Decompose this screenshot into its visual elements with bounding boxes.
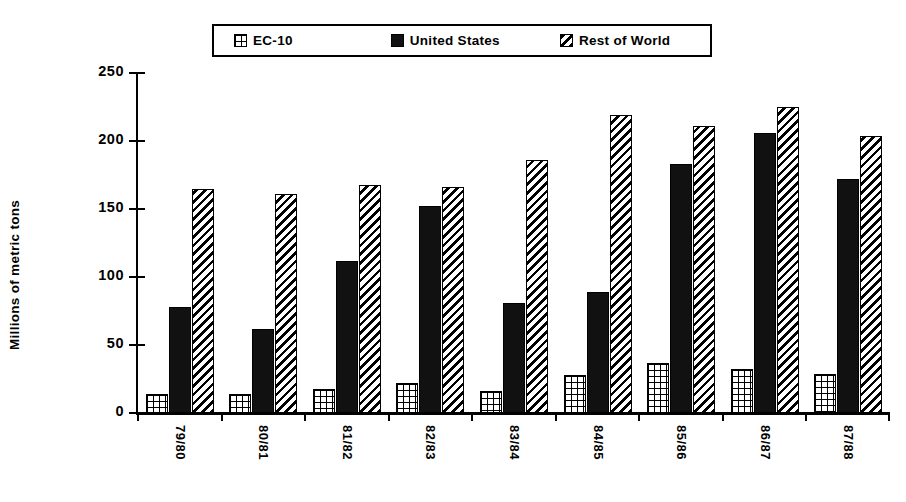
- bar-rest-of-world-79-80: [192, 189, 214, 413]
- y-tick-label-200: 200: [78, 131, 124, 147]
- y-tick-150: [129, 208, 145, 210]
- y-tick-label-100: 100: [78, 267, 124, 283]
- x-axis-label-82-83: 82/83: [423, 425, 438, 460]
- bar-united-states-86-87: [754, 133, 776, 413]
- x-axis-label-85-86: 85/86: [674, 425, 689, 460]
- bar-rest-of-world-82-83: [442, 187, 464, 413]
- bar-ec-10-83-84: [480, 391, 502, 413]
- legend-label-ec-10: EC-10: [253, 33, 293, 48]
- legend-item-ec-10[interactable]: EC-10: [234, 33, 293, 48]
- bar-ec-10-84-85: [564, 375, 586, 413]
- y-tick-200: [129, 140, 145, 142]
- solid-swatch-icon: [391, 34, 404, 47]
- bar-rest-of-world-84-85: [610, 115, 632, 413]
- legend-item-united-states[interactable]: United States: [391, 33, 500, 48]
- y-tick-label-50: 50: [78, 335, 124, 351]
- y-axis-title: Millions of metric tons: [7, 200, 22, 350]
- bar-united-states-82-83: [419, 206, 441, 413]
- bar-united-states-80-81: [252, 329, 274, 413]
- x-tick-84-85: [555, 412, 557, 421]
- legend-label-rest-of-world: Rest of World: [579, 33, 670, 48]
- x-label-wrap-85-86: 85/86: [671, 425, 691, 495]
- x-tick-81-82: [304, 412, 306, 421]
- y-tick-label-150: 150: [78, 199, 124, 215]
- x-label-wrap-87-88: 87/88: [838, 425, 858, 495]
- x-tick-87-88: [805, 412, 807, 421]
- diagonal-swatch-icon: [560, 34, 573, 47]
- y-tick-label-250: 250: [78, 63, 124, 79]
- bar-ec-10-80-81: [229, 394, 251, 413]
- bar-united-states-81-82: [336, 261, 358, 413]
- x-tick-80-81: [221, 412, 223, 421]
- bar-united-states-79-80: [169, 307, 191, 413]
- legend-item-rest-of-world[interactable]: Rest of World: [560, 33, 670, 48]
- x-axis-label-87-88: 87/88: [841, 425, 856, 460]
- x-label-wrap-80-81: 80/81: [253, 425, 273, 495]
- x-tick-83-84: [471, 412, 473, 421]
- x-axis-label-84-85: 84/85: [590, 425, 605, 460]
- bar-ec-10-79-80: [146, 394, 168, 413]
- bar-ec-10-86-87: [731, 369, 753, 413]
- x-label-wrap-83-84: 83/84: [504, 425, 524, 495]
- chart-legend: EC-10 United States Rest of World: [212, 24, 712, 57]
- bar-united-states-84-85: [587, 292, 609, 413]
- x-axis-label-86-87: 86/87: [757, 425, 772, 460]
- x-label-wrap-79-80: 79/80: [170, 425, 190, 495]
- x-label-wrap-86-87: 86/87: [755, 425, 775, 495]
- bar-ec-10-87-88: [814, 374, 836, 413]
- bar-rest-of-world-83-84: [526, 160, 548, 413]
- x-tick-79-80: [137, 412, 139, 421]
- x-axis-label-81-82: 81/82: [339, 425, 354, 460]
- x-axis-label-83-84: 83/84: [507, 425, 522, 460]
- bar-rest-of-world-85-86: [693, 126, 715, 413]
- x-axis-label-79-80: 79/80: [172, 425, 187, 460]
- x-label-wrap-82-83: 82/83: [420, 425, 440, 495]
- bar-rest-of-world-80-81: [275, 194, 297, 413]
- bar-rest-of-world-87-88: [860, 136, 882, 413]
- legend-label-united-states: United States: [410, 33, 500, 48]
- bar-ec-10-82-83: [396, 383, 418, 413]
- x-tick-85-86: [638, 412, 640, 421]
- bar-chart: EC-10 United States Rest of World Millio…: [0, 0, 906, 502]
- y-tick-label-0: 0: [78, 403, 124, 419]
- x-label-wrap-81-82: 81/82: [337, 425, 357, 495]
- x-label-wrap-84-85: 84/85: [588, 425, 608, 495]
- y-tick-50: [129, 344, 145, 346]
- bar-ec-10-85-86: [647, 363, 669, 413]
- y-tick-100: [129, 276, 145, 278]
- x-tick-end: [888, 412, 890, 421]
- bar-rest-of-world-81-82: [359, 185, 381, 413]
- bar-united-states-87-88: [837, 179, 859, 413]
- bar-ec-10-81-82: [313, 389, 335, 413]
- y-axis-line: [136, 73, 138, 414]
- bar-united-states-85-86: [670, 164, 692, 413]
- y-axis-title-container: Millions of metric tons: [22, 100, 44, 350]
- grid-swatch-icon: [234, 34, 247, 47]
- x-axis-label-80-81: 80/81: [256, 425, 271, 460]
- bar-rest-of-world-86-87: [777, 107, 799, 413]
- y-tick-250: [129, 72, 145, 74]
- bar-united-states-83-84: [503, 303, 525, 413]
- x-tick-82-83: [388, 412, 390, 421]
- plot-area: 050100150200250 79/8080/8181/8282/8383/8…: [136, 73, 888, 413]
- x-tick-86-87: [722, 412, 724, 421]
